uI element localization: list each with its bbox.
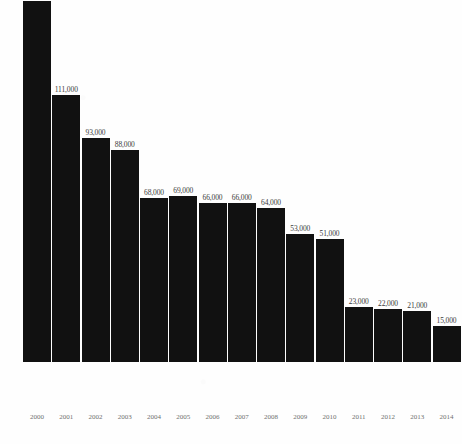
bar[interactable] — [82, 138, 110, 362]
bar-value-label: 88,000 — [101, 140, 149, 149]
bar-group: 15,000 — [433, 326, 461, 362]
bar-group: 53,000 — [286, 234, 314, 362]
bar[interactable] — [111, 150, 139, 362]
bar[interactable] — [433, 326, 461, 362]
bar-group: 22,000 — [374, 309, 402, 362]
bar-value-label: 15,000 — [423, 316, 462, 325]
bar-group: 93,000 — [82, 138, 110, 362]
bar-value-label: 51,000 — [306, 229, 354, 238]
bar-group: 150,000 — [23, 1, 51, 362]
bar[interactable] — [345, 307, 373, 362]
plot-area: 150,000111,00093,00088,00068,00069,00066… — [0, 0, 462, 403]
bar[interactable] — [23, 1, 51, 362]
bar-group: 68,000 — [140, 198, 168, 362]
x-axis: 2000200120022003200420052006200720082009… — [0, 403, 462, 444]
bar-group: 23,000 — [345, 307, 373, 362]
bar-value-label: 93,000 — [72, 128, 120, 137]
bar-value-label: 64,000 — [247, 198, 295, 207]
bar-group: 69,000 — [169, 196, 197, 362]
bar[interactable] — [169, 196, 197, 362]
x-axis-tick-label: 2014 — [423, 413, 462, 421]
bar-group: 66,000 — [228, 203, 256, 362]
bar[interactable] — [286, 234, 314, 362]
bar[interactable] — [199, 203, 227, 362]
bar[interactable] — [140, 198, 168, 362]
bar-value-label: 21,000 — [393, 301, 441, 310]
bar-value-label: 111,000 — [42, 85, 90, 94]
bar[interactable] — [374, 309, 402, 362]
bar-group: 88,000 — [111, 150, 139, 362]
bar[interactable] — [228, 203, 256, 362]
bar-group: 66,000 — [199, 203, 227, 362]
bar-chart: 150,000111,00093,00088,00068,00069,00066… — [0, 0, 462, 444]
